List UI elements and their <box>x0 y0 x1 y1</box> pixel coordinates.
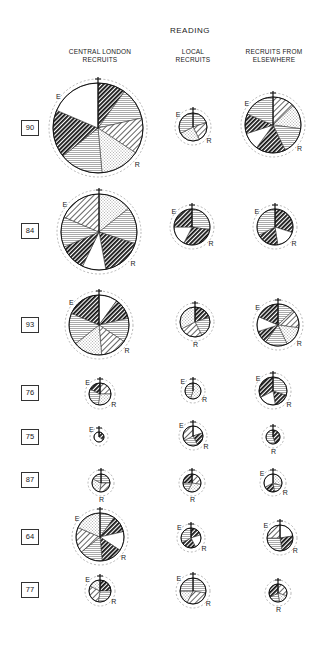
axis-label-r: R <box>287 401 292 408</box>
pie-circle-90-central: ER <box>49 77 147 177</box>
pie-circle-75-local: ER <box>179 420 209 450</box>
pie-circle-90-local: ER <box>175 107 212 145</box>
axis-label-r: R <box>206 600 211 607</box>
pie-circle-76-central: ER <box>85 377 116 409</box>
axis-label-r: R <box>190 496 195 503</box>
pie-circle-93-elsewhere: ER <box>253 298 303 350</box>
pie-circle-87-elsewhere: ER <box>260 468 288 496</box>
axis-label-r: R <box>131 260 136 267</box>
axis-label-r: R <box>202 545 207 552</box>
pie-circle-77-central: ER <box>85 574 116 606</box>
axis-label-r: R <box>283 489 288 496</box>
axis-label-e: E <box>69 299 74 306</box>
axis-label-e: E <box>172 208 177 215</box>
axis-label-r: R <box>209 240 214 247</box>
axis-label-e: E <box>85 576 90 583</box>
pie-diagram-canvas: ERERERERERERERREREREREREERRRRERERERERERE… <box>0 0 325 646</box>
pie-circle-87-central: R <box>88 468 114 503</box>
axis-label-e: E <box>176 111 181 118</box>
axis-label-e: E <box>245 100 250 107</box>
axis-label-e: E <box>177 524 182 531</box>
pie-circle-93-local: R <box>176 301 214 348</box>
axis-label-e: E <box>89 426 94 433</box>
axis-label-e: E <box>264 522 269 529</box>
axis-label-r: R <box>202 396 207 403</box>
axis-label-e: E <box>85 379 90 386</box>
axis-label-e: E <box>255 304 260 311</box>
axis-label-e: E <box>255 208 260 215</box>
axis-label-e: E <box>63 201 68 208</box>
axis-label-r: R <box>276 606 281 613</box>
pie-circle-84-central: ER <box>57 188 141 274</box>
axis-label-r: R <box>297 340 302 347</box>
axis-label-e: E <box>75 515 80 522</box>
axis-label-r: R <box>204 443 209 450</box>
axis-label-r: R <box>293 547 298 554</box>
axis-label-r: R <box>125 347 130 354</box>
axis-label-e: E <box>56 93 61 100</box>
pie-circle-77-local: ER <box>176 572 211 608</box>
axis-label-e: E <box>177 575 182 582</box>
pie-circle-76-local: ER <box>181 377 207 403</box>
axis-label-r: R <box>99 496 104 503</box>
axis-label-r: R <box>271 448 276 455</box>
pie-circle-90-elsewhere: ER <box>241 91 305 157</box>
axis-label-r: R <box>292 240 297 247</box>
axis-label-r: R <box>111 598 116 605</box>
pie-circle-84-local: ER <box>170 203 214 249</box>
pie-circle-84-elsewhere: ER <box>253 203 297 249</box>
axis-label-e: E <box>181 378 186 385</box>
pie-circle-64-elsewhere: ER <box>263 519 298 555</box>
axis-label-e: E <box>179 422 184 429</box>
axis-label-r: R <box>121 554 126 561</box>
pie-circle-93-central: ER <box>65 289 133 359</box>
pie-circle-77-elsewhere: R <box>265 578 291 613</box>
axis-label-e: E <box>260 470 265 477</box>
pie-circle-75-elsewhere: R <box>262 424 284 455</box>
axis-label-r: R <box>297 145 302 152</box>
axis-label-r: R <box>135 161 140 168</box>
pie-circle-87-local: R <box>179 468 205 503</box>
axis-label-e: E <box>256 375 261 382</box>
pie-circle-76-elsewhere: ER <box>255 371 292 409</box>
axis-label-r: R <box>111 401 116 408</box>
pie-circle-64-central: ER <box>72 507 128 565</box>
pie-circle-75-central: E <box>89 426 108 446</box>
axis-label-r: R <box>207 137 212 144</box>
axis-label-r: R <box>193 341 198 348</box>
pie-circle-64-local: ER <box>177 522 207 552</box>
